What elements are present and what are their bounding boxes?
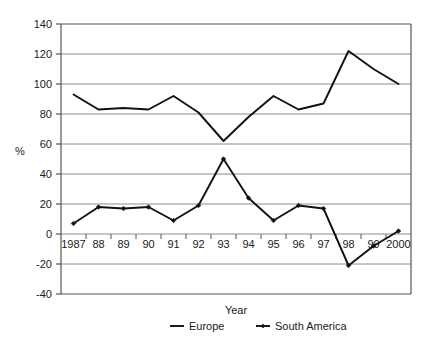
x-tick-label: 92: [192, 238, 204, 250]
y-tick-label: 80: [40, 108, 52, 120]
y-tick-label: 100: [34, 78, 52, 90]
chart-canvas: 140120100806040200-20-40 198788899091929…: [0, 0, 430, 347]
line-chart: 140120100806040200-20-40 198788899091929…: [0, 0, 430, 347]
x-tick-label: 94: [242, 238, 254, 250]
x-tick-label: 2000: [386, 238, 410, 250]
x-tick-label: 91: [167, 238, 179, 250]
y-tick-label: 0: [46, 228, 52, 240]
y-tick-label: 20: [40, 198, 52, 210]
x-tick-label: 98: [342, 238, 354, 250]
x-tick-label: 90: [142, 238, 154, 250]
x-tick-label: 1987: [61, 238, 85, 250]
x-tick-label: 88: [92, 238, 104, 250]
x-tick-label: 96: [292, 238, 304, 250]
x-tick-label: 97: [317, 238, 329, 250]
y-tick-label: 60: [40, 138, 52, 150]
x-axis-title: Year: [225, 304, 248, 316]
y-tick-label: -40: [36, 288, 52, 300]
legend-label: Europe: [189, 320, 224, 332]
y-tick-label: 40: [40, 168, 52, 180]
x-tick-label: 95: [267, 238, 279, 250]
legend-label: South America: [275, 320, 347, 332]
y-tick-label: 120: [34, 48, 52, 60]
x-tick-label: 89: [117, 238, 129, 250]
y-tick-label: 140: [34, 18, 52, 30]
x-tick-label: 93: [217, 238, 229, 250]
y-tick-label: -20: [36, 258, 52, 270]
y-axis-title: %: [15, 145, 25, 157]
